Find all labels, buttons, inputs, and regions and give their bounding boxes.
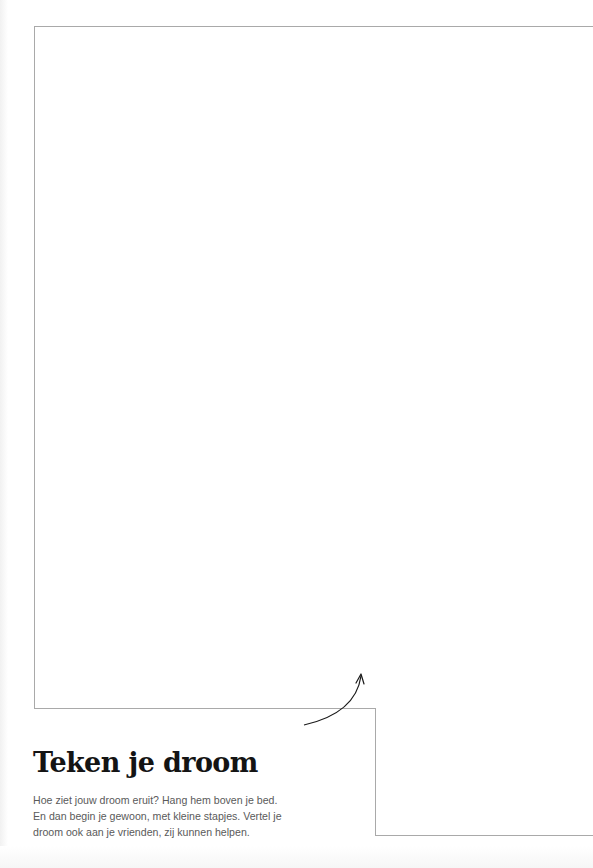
frame-bottom-border — [375, 835, 593, 836]
frame-top-border — [34, 26, 593, 27]
frame-left-border — [34, 26, 35, 709]
page-bottom-shadow — [0, 846, 593, 868]
body-line: En dan begin je gewoon, met kleine stapj… — [33, 808, 333, 824]
frame-step-vertical-border — [375, 708, 376, 836]
body-line: droom ook aan je vrienden, zij kunnen he… — [33, 824, 333, 840]
body-line: Hoe ziet jouw droom eruit? Hang hem bove… — [33, 792, 333, 808]
curved-arrow-icon — [295, 668, 375, 728]
page-edge-shadow — [0, 0, 8, 868]
section-body: Hoe ziet jouw droom eruit? Hang hem bove… — [33, 792, 333, 840]
section-title: Teken je droom — [33, 745, 258, 781]
